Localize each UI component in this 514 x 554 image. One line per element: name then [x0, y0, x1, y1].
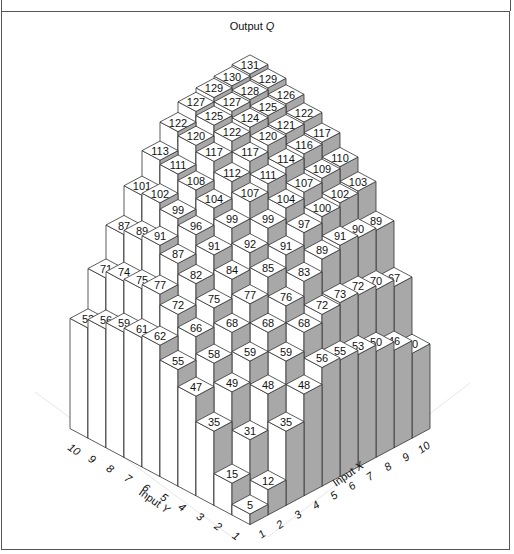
x-tick-label: 4: [310, 498, 322, 511]
bar-value-label: 111: [260, 169, 277, 181]
bar-value-label: 97: [298, 218, 310, 230]
chart-title: Output Q: [230, 20, 275, 32]
bar-value-label: 102: [331, 188, 349, 200]
bar-right-face: [322, 358, 340, 486]
bar-right-face: [286, 422, 304, 506]
x-tick-label: 8: [382, 459, 395, 473]
bar-value-label: 48: [298, 379, 310, 391]
x-tick-label: 3: [292, 507, 305, 521]
bar-value-label: 130: [223, 71, 241, 83]
bar-value-label: 89: [370, 215, 382, 227]
bar-value-label: 55: [172, 355, 184, 367]
bar-value-label: 127: [223, 96, 241, 108]
bar-left-face: [70, 318, 88, 438]
bar-value-label: 126: [277, 89, 295, 101]
bar-value-label: 107: [295, 177, 313, 189]
bar-value-label: 129: [205, 82, 223, 94]
bar-value-label: 87: [172, 248, 184, 260]
bar-value-label: 84: [226, 264, 238, 276]
bar-value-label: 114: [277, 153, 295, 165]
x-tick-label: 9: [400, 450, 412, 463]
bar-value-label: 117: [205, 146, 223, 158]
bar-left-face: [142, 336, 160, 477]
bar-value-label: 35: [208, 416, 220, 428]
bars-group: 1311291301261281291221251271271171211241…: [70, 55, 430, 525]
x-tick-label: 1: [256, 527, 268, 540]
x-tick-label: 7: [364, 469, 377, 483]
bar-value-label: 66: [190, 322, 202, 334]
y-tick-label: 4: [176, 500, 188, 513]
bar-value-label: 107: [241, 187, 259, 199]
bar-value-label: 104: [277, 193, 295, 205]
bar-left-face: [106, 323, 124, 458]
bar-left-face: [160, 360, 178, 486]
bar-value-label: 59: [280, 346, 292, 358]
bar-value-label: 96: [190, 220, 202, 232]
y-tick-label: 10: [66, 441, 84, 458]
bar-value-label: 99: [226, 213, 238, 225]
bar-value-label: 59: [244, 346, 256, 358]
bar-value-label: 128: [241, 85, 259, 97]
bar-value-label: 111: [170, 159, 187, 171]
bar-right-face: [358, 345, 376, 467]
bar-value-label: 61: [136, 323, 148, 335]
bar-value-label: 124: [241, 112, 259, 124]
output-q-3d-bar-chart: Output Q 1311291301261281291221251271271…: [0, 0, 514, 554]
bar-value-label: 91: [154, 230, 166, 242]
bar-value-label: 82: [190, 269, 202, 281]
bar-value-label: 48: [262, 379, 274, 391]
x-tick-label: 5: [328, 488, 341, 502]
x-tick-label: 10: [415, 438, 433, 455]
y-tick-label: 8: [104, 462, 117, 476]
bar-left-face: [88, 320, 106, 448]
y-tick-label: 9: [86, 452, 98, 465]
y-tick-label: 1: [230, 529, 242, 542]
bar-value-label: 113: [151, 145, 169, 157]
bar-value-label: 73: [334, 288, 346, 300]
bar-value-label: 5: [247, 499, 253, 511]
bar-value-label: 74: [118, 266, 130, 278]
bar-value-label: 35: [280, 416, 292, 428]
bar-value-label: 122: [295, 107, 313, 119]
bar-value-label: 58: [208, 348, 220, 360]
bar-value-label: 109: [313, 163, 331, 175]
bar-value-label: 125: [259, 101, 277, 113]
bar-value-label: 47: [190, 381, 202, 393]
bar-value-label: 102: [151, 188, 169, 200]
bar-value-label: 68: [262, 317, 274, 329]
bar-value-label: 108: [187, 175, 205, 187]
bar-value-label: 31: [244, 425, 256, 437]
bar-value-label: 62: [154, 330, 166, 342]
bar-value-label: 104: [205, 193, 223, 205]
bar-value-label: 83: [298, 266, 310, 278]
bar-value-label: 15: [226, 468, 238, 480]
bar-value-label: 100: [313, 202, 331, 214]
bar-value-label: 127: [187, 96, 205, 108]
bar-value-label: 85: [262, 262, 274, 274]
bar-value-label: 91: [280, 240, 292, 252]
y-axis-label: Input Y: [137, 486, 173, 516]
bar-value-label: 77: [154, 279, 166, 291]
bar-value-label: 99: [172, 204, 184, 216]
bar-value-label: 12: [262, 475, 274, 487]
bar-value-label: 129: [259, 73, 277, 85]
bar-value-label: 49: [226, 377, 238, 389]
bar-left-face: [124, 328, 142, 467]
bar-value-label: 75: [208, 293, 220, 305]
bar-value-label: 110: [331, 152, 349, 164]
bar-value-label: 89: [316, 244, 328, 256]
bar-value-label: 121: [277, 119, 295, 131]
bar-value-label: 131: [241, 59, 259, 71]
bar-value-label: 120: [259, 130, 277, 142]
bar-value-label: 117: [241, 146, 259, 158]
bar-value-label: 122: [223, 126, 241, 138]
bar-value-label: 56: [316, 352, 328, 364]
bar-right-face: [376, 342, 394, 458]
bar-value-label: 76: [280, 291, 292, 303]
bar-value-label: 99: [262, 213, 274, 225]
bar-right-face: [340, 350, 358, 476]
bar-value-label: 92: [244, 238, 256, 250]
bar-value-label: 77: [244, 289, 256, 301]
bar-value-label: 116: [295, 139, 313, 151]
bar-left-face: [178, 387, 196, 496]
